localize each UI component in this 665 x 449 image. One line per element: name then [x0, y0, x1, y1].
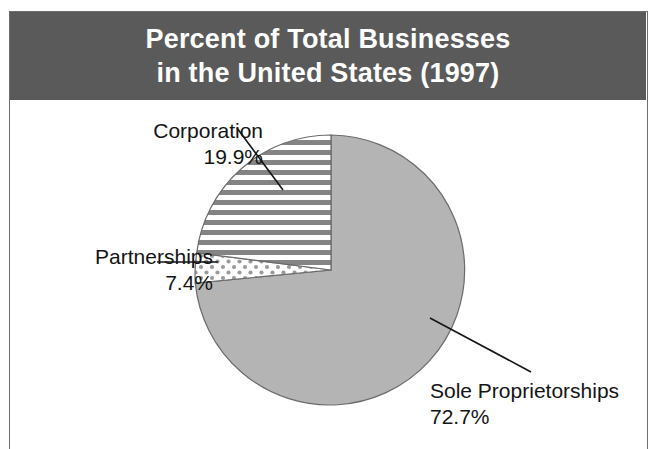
slice-label-partnerships: Partnerships 7.4%	[20, 244, 213, 296]
slice-label-partnerships-value: 7.4%	[20, 270, 213, 296]
slice-label-sole-proprietorships: Sole Proprietorships 72.7%	[430, 378, 660, 430]
leader-line-sole-proprietorships	[430, 318, 531, 372]
slice-label-sole-proprietorships-name: Sole Proprietorships	[430, 379, 619, 402]
slice-label-partnerships-name: Partnerships	[95, 245, 213, 268]
pie-chart-figure: Percent of Total Businesses in the Unite…	[0, 0, 665, 449]
slice-label-corporation-name: Corporation	[153, 119, 263, 142]
slice-label-corporation: Corporation 19.9%	[73, 118, 263, 170]
slice-label-corporation-value: 19.9%	[73, 144, 263, 170]
slice-label-sole-proprietorships-value: 72.7%	[430, 404, 660, 430]
